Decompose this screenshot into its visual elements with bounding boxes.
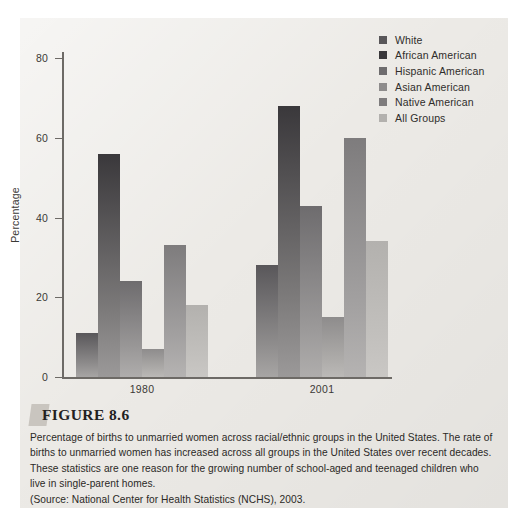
y-axis-tick-label: 0 bbox=[42, 371, 48, 383]
bar bbox=[164, 245, 186, 377]
bar bbox=[120, 281, 142, 377]
y-axis-tick bbox=[55, 218, 62, 219]
legend-swatch-icon bbox=[379, 36, 387, 44]
y-axis-tick bbox=[55, 297, 62, 298]
y-axis-tick-label: 80 bbox=[36, 52, 48, 64]
x-axis-line bbox=[62, 377, 392, 379]
y-axis-tick bbox=[55, 377, 62, 378]
legend-item: Asian American bbox=[379, 79, 485, 95]
legend-item: African American bbox=[379, 48, 485, 64]
y-axis-tick-label: 40 bbox=[36, 212, 48, 224]
y-axis-tick-label: 20 bbox=[36, 291, 48, 303]
bar bbox=[76, 333, 98, 377]
x-axis-tick-label: 2001 bbox=[310, 383, 335, 395]
bar bbox=[344, 138, 366, 377]
bar bbox=[186, 305, 208, 377]
figure-caption: Percentage of births to unmarried women … bbox=[30, 430, 496, 507]
bar bbox=[278, 106, 300, 377]
legend-item: Native American bbox=[379, 94, 485, 110]
figure-page: Percentage 020406080 19802001 WhiteAfric… bbox=[0, 0, 524, 521]
bar bbox=[366, 241, 388, 377]
legend-label: Asian American bbox=[395, 81, 470, 93]
chart-legend: WhiteAfrican AmericanHispanic AmericanAs… bbox=[379, 32, 485, 126]
legend-label: Native American bbox=[395, 96, 474, 108]
legend-swatch-icon bbox=[379, 83, 387, 91]
legend-swatch-icon bbox=[379, 98, 387, 106]
legend-label: African American bbox=[395, 49, 477, 61]
bar bbox=[256, 265, 278, 377]
bar bbox=[142, 349, 164, 377]
caption-body: Percentage of births to unmarried women … bbox=[30, 430, 496, 492]
caption-source: (Source: National Center for Health Stat… bbox=[30, 492, 496, 507]
x-axis-tick-label: 1980 bbox=[130, 383, 155, 395]
legend-swatch-icon bbox=[379, 67, 387, 75]
legend-swatch-icon bbox=[379, 114, 387, 122]
bar bbox=[98, 154, 120, 377]
y-axis-line bbox=[62, 52, 64, 377]
bar-chart: Percentage 020406080 19802001 bbox=[62, 52, 392, 382]
legend-label: White bbox=[395, 34, 423, 46]
y-axis-tick-label: 60 bbox=[36, 132, 48, 144]
y-axis-tick bbox=[55, 138, 62, 139]
y-axis-title: Percentage bbox=[9, 187, 21, 243]
legend-item: All Groups bbox=[379, 110, 485, 126]
legend-swatch-icon bbox=[379, 51, 387, 59]
legend-label: Hispanic American bbox=[395, 65, 485, 77]
bar bbox=[322, 317, 344, 377]
bar bbox=[300, 206, 322, 377]
y-axis-tick bbox=[55, 58, 62, 59]
figure-title: FIGURE 8.6 bbox=[42, 406, 130, 424]
legend-label: All Groups bbox=[395, 112, 446, 124]
legend-item: White bbox=[379, 32, 485, 48]
legend-item: Hispanic American bbox=[379, 63, 485, 79]
